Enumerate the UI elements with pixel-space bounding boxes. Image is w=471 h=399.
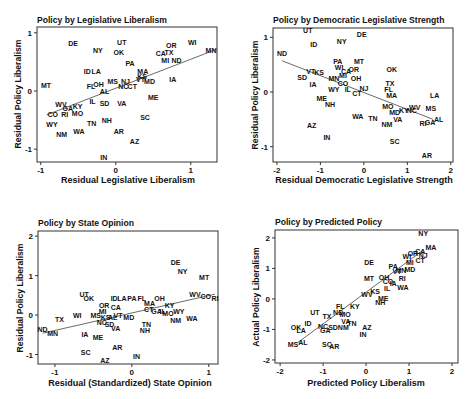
state-label-vt: VT <box>114 312 124 319</box>
x-tick-label: 1 <box>207 368 212 377</box>
x-tick-label: -2 <box>277 367 285 376</box>
state-label-nm: NM <box>56 131 67 138</box>
x-tick-label: 2 <box>449 166 454 175</box>
state-label-ar: AR <box>112 344 122 351</box>
state-label-id: ID <box>305 320 312 327</box>
state-label-md: MD <box>144 78 155 85</box>
state-label-ri: RI <box>211 295 218 302</box>
state-label-in: IN <box>100 154 107 161</box>
state-label-ok: OK <box>84 295 95 302</box>
state-label-tx: TX <box>323 313 332 320</box>
state-label-al: AL <box>100 88 110 95</box>
state-label-sd: SD <box>297 74 307 81</box>
state-label-me: ME <box>148 94 159 101</box>
state-label-mi: MI <box>339 72 347 79</box>
state-label-md: MD <box>123 314 134 321</box>
state-label-ny: NY <box>93 47 103 54</box>
state-label-mt: MT <box>364 275 375 282</box>
state-label-az: AZ <box>130 138 140 145</box>
state-label-nm: NM <box>338 324 349 331</box>
y-tick-label: 0 <box>264 88 269 97</box>
y-tick-label: 1 <box>264 33 269 42</box>
state-label-mi: MI <box>161 57 169 64</box>
state-label-mt: MT <box>199 274 210 281</box>
state-label-ms: MS <box>108 78 119 85</box>
plot-frame <box>273 28 453 162</box>
state-label-wi: WI <box>73 312 82 319</box>
state-label-wi: WI <box>188 39 197 46</box>
state-label-co: CO <box>48 111 59 118</box>
state-label-la: LA <box>430 92 439 99</box>
state-label-ma: MA <box>425 244 436 251</box>
x-tick-label: -2 <box>273 166 281 175</box>
y-tick-label: 0 <box>266 295 271 304</box>
state-label-az: AZ <box>362 324 372 331</box>
state-label-sc: SC <box>140 114 150 121</box>
state-label-ri: RI <box>399 275 406 282</box>
y-tick-label: 2 <box>29 232 34 241</box>
y-tick-label: -1 <box>26 351 34 360</box>
state-label-ia: IA <box>81 331 88 338</box>
state-label-va: VA <box>393 116 402 123</box>
state-label-ny: NY <box>178 268 188 275</box>
state-label-mo: MO <box>162 310 174 317</box>
state-label-nh: NH <box>102 117 112 124</box>
state-label-ms: MS <box>90 312 101 319</box>
state-label-ny: NY <box>418 230 428 237</box>
state-label-wy: WY <box>46 121 58 128</box>
x-tick-label: 1 <box>407 367 412 376</box>
state-label-ny: NY <box>337 38 347 45</box>
state-label-wa: WA <box>186 315 197 322</box>
state-label-de: DE <box>357 31 367 38</box>
state-label-ar: AR <box>114 128 124 135</box>
y-tick-label: 2 <box>266 234 271 243</box>
state-label-sc: SC <box>390 138 400 145</box>
y-tick-label: 0 <box>29 311 34 320</box>
scatter-plots-canvas: -101-101DENYUTOKORWIMNCATXMINDPAIDLAMAKS… <box>0 0 471 399</box>
state-label-wy: WY <box>173 308 185 315</box>
state-label-tn: TN <box>87 120 96 127</box>
state-label-me: ME <box>93 334 104 341</box>
state-label-il: IL <box>89 98 96 105</box>
state-label-va: VA <box>117 100 126 107</box>
state-label-ut: UT <box>303 27 313 34</box>
state-label-de: DE <box>364 259 374 266</box>
state-label-ks: KS <box>370 288 380 295</box>
state-label-id: ID <box>310 41 317 48</box>
state-label-co: CO <box>200 293 211 300</box>
state-label-in: IN <box>360 331 367 338</box>
x-tick-label: -1 <box>37 166 45 175</box>
x-tick-label: 0 <box>362 166 367 175</box>
state-label-ok: OK <box>114 49 125 56</box>
state-label-mn: MN <box>395 267 406 274</box>
state-label-nd: ND <box>277 50 287 57</box>
state-label-az: AZ <box>100 357 110 364</box>
y-tick-label: -1 <box>263 325 271 334</box>
panel3-plot: -101-1012DENYMTUTOKIDLAPAFLOHMAKYCTGAILW… <box>26 231 219 377</box>
state-label-in: IN <box>133 353 140 360</box>
state-label-la: LA <box>117 295 126 302</box>
state-label-va: VA <box>111 325 120 332</box>
state-label-az: AZ <box>307 122 317 129</box>
state-label-nm: NM <box>381 121 392 128</box>
y-tick-label: -2 <box>263 356 271 365</box>
state-label-ia: IA <box>169 76 176 83</box>
panel4-plot: -2-1012-2-1012NYMACAORWINJMICTDEPAMDVTMN… <box>263 230 458 376</box>
y-tick-label: 1 <box>29 272 34 281</box>
state-label-nh: NH <box>375 299 385 306</box>
panel1-plot: -101-101DENYUTOKORWIMNCATXMINDPAIDLAMAKS… <box>25 27 217 175</box>
state-label-il: IL <box>384 285 391 292</box>
state-label-al: AL <box>298 339 308 346</box>
state-label-il: IL <box>345 86 352 93</box>
state-label-nd: ND <box>171 57 181 64</box>
state-label-oh: OH <box>93 81 104 88</box>
state-label-ms: MS <box>288 341 299 348</box>
state-label-nh: NH <box>325 101 335 108</box>
state-label-wy: WY <box>328 86 340 93</box>
x-tick-label: -1 <box>320 367 328 376</box>
state-label-ok: OK <box>386 66 397 73</box>
y-tick-label: -1 <box>25 145 33 154</box>
x-tick-label: 0 <box>114 166 119 175</box>
y-tick-label: 1 <box>266 264 271 273</box>
y-tick-label: -1 <box>261 143 269 152</box>
